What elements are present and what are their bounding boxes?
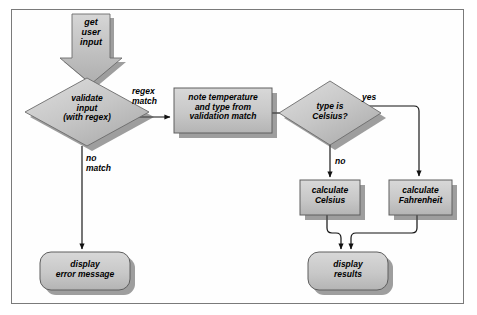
edge-celsius-to-results [327, 215, 341, 249]
node-calculate-celsius[interactable] [300, 180, 365, 220]
edge-label-yes: yes [362, 93, 376, 103]
edge-fahrenheit-to-results [351, 215, 417, 249]
node-get-user-input[interactable] [60, 14, 126, 88]
node-note-temperature[interactable] [174, 88, 277, 138]
flowchart-canvas [0, 0, 477, 315]
edge-label-no-match: no match [86, 154, 111, 173]
node-display-results[interactable] [308, 252, 393, 295]
flowchart-page: get user input validate input (with rege… [0, 0, 477, 315]
edge-label-no: no [335, 157, 345, 167]
node-display-error-message[interactable] [40, 252, 135, 295]
edge-label-regex-match: regex match [132, 87, 157, 106]
node-calculate-fahrenheit[interactable] [389, 180, 457, 220]
